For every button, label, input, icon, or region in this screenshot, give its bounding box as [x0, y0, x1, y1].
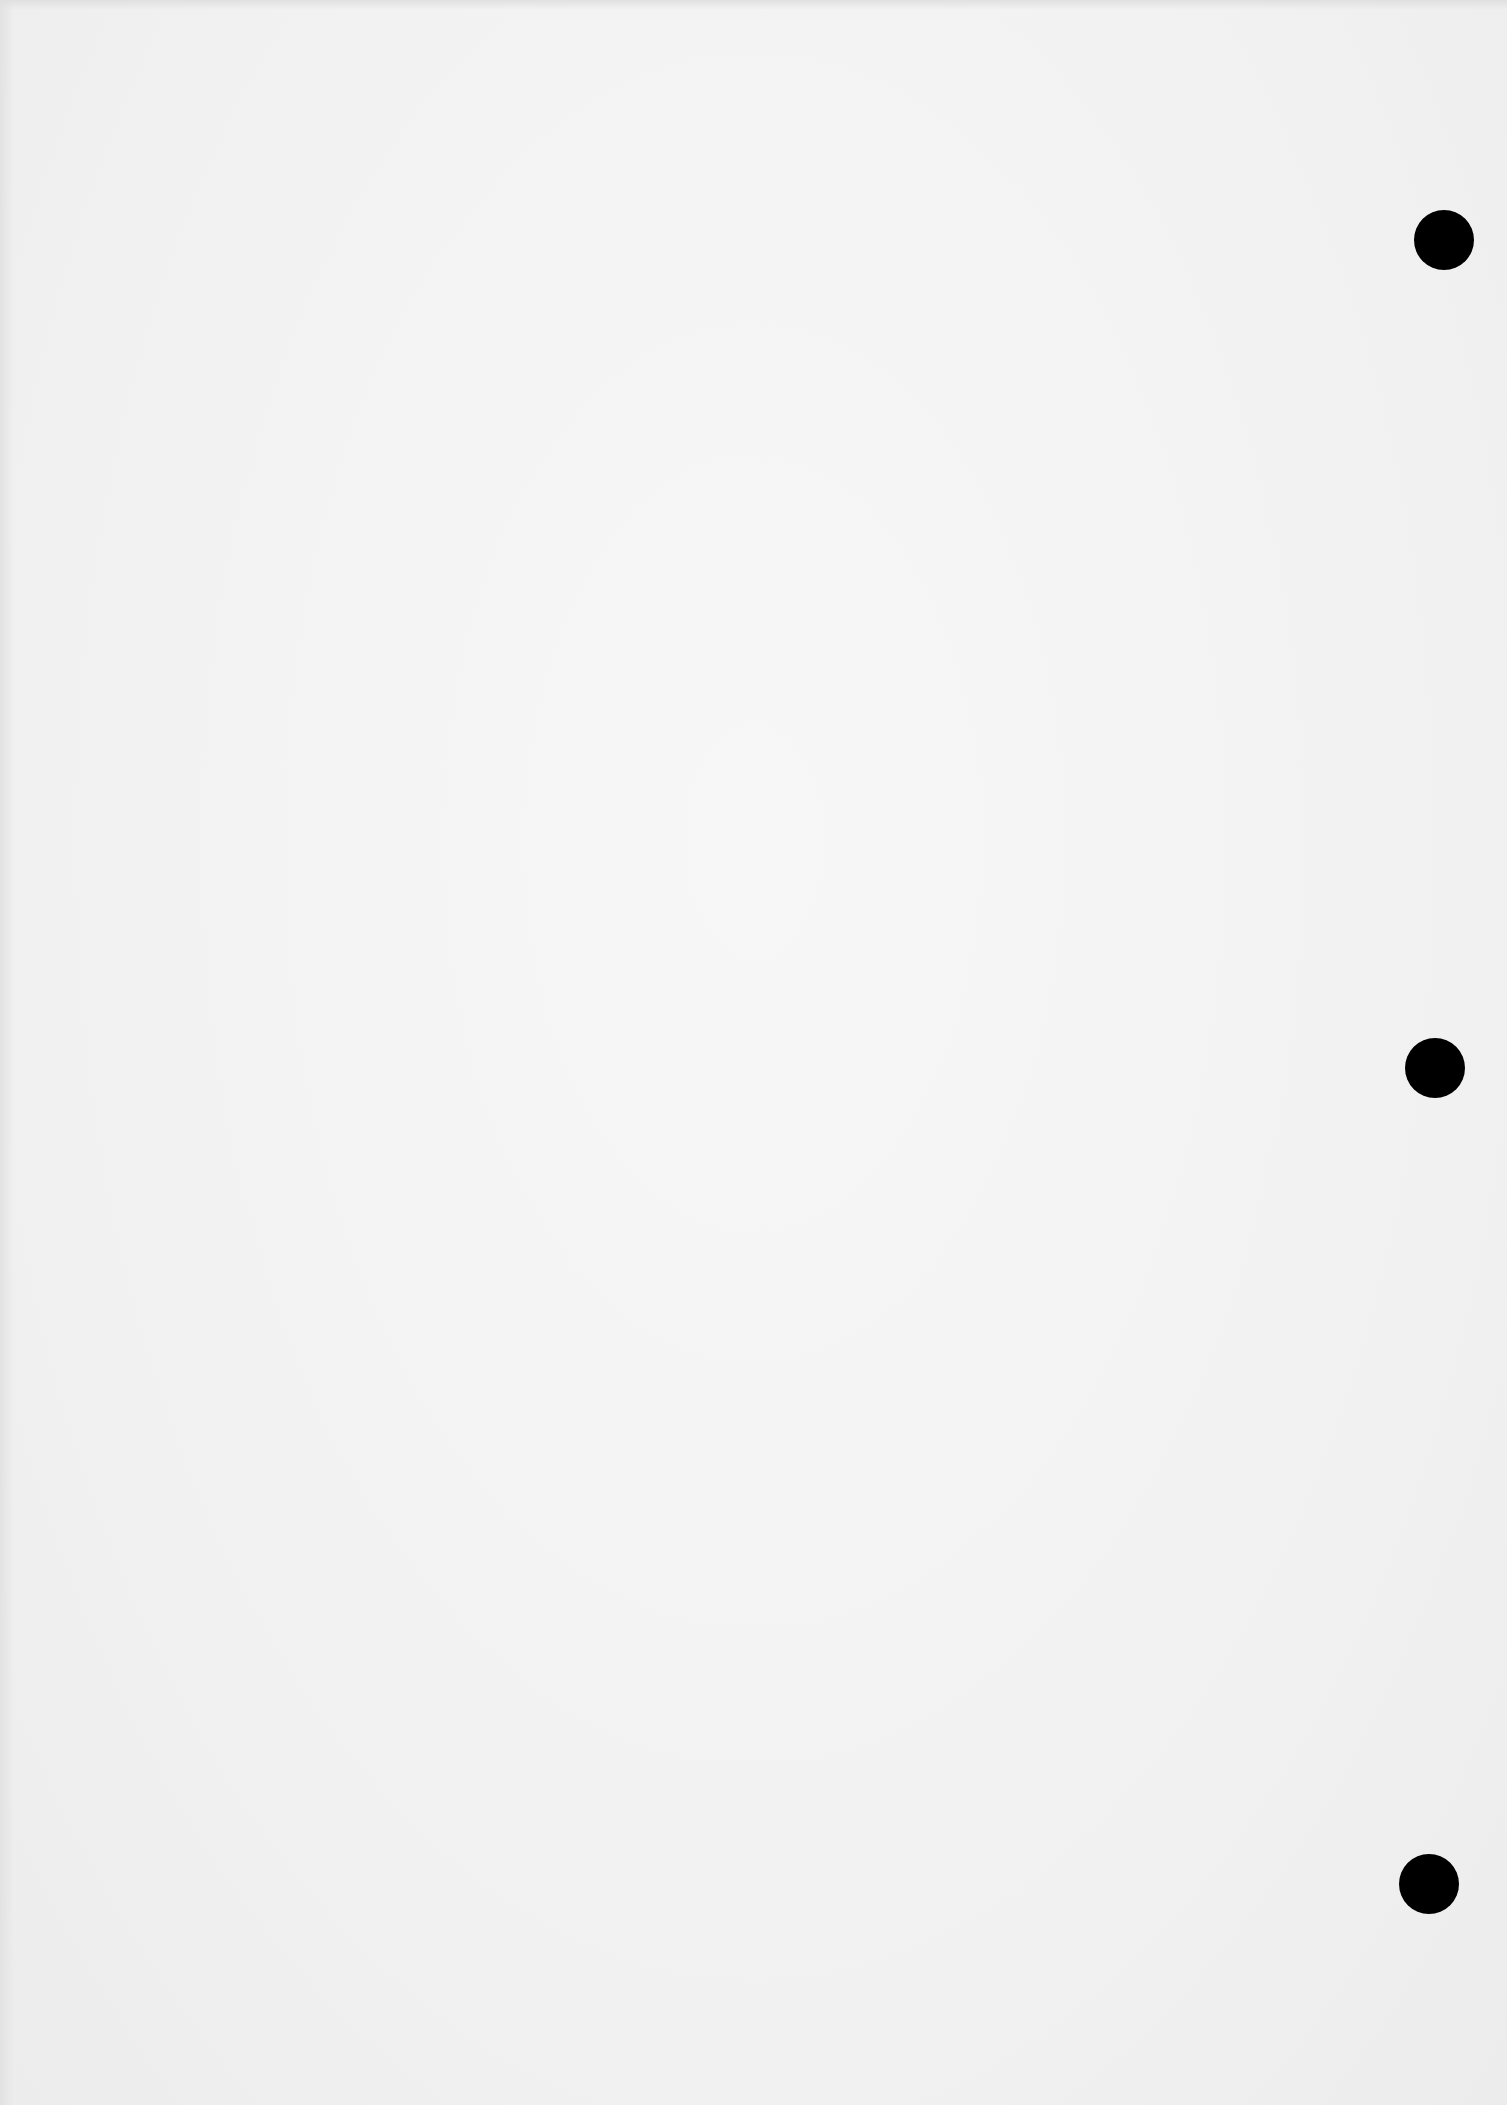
- blank-paper-page: [0, 0, 1507, 2105]
- punch-hole-bottom: [1399, 1854, 1459, 1914]
- punch-hole-middle: [1405, 1038, 1465, 1098]
- punch-hole-top: [1414, 210, 1474, 270]
